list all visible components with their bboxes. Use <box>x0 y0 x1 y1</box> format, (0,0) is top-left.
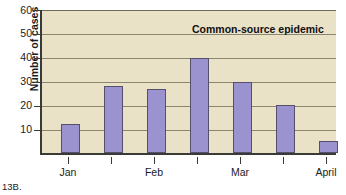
y-tick-label-20: 20 <box>8 100 32 111</box>
y-tick-label-40: 40 <box>8 52 32 63</box>
gridline-40 <box>42 58 336 59</box>
bar-2 <box>104 86 123 153</box>
gridline-60 <box>42 10 336 11</box>
gridline-30 <box>42 82 336 83</box>
figure-caption: 13B. <box>2 181 22 192</box>
bar-feb <box>147 89 166 153</box>
y-tick-label-10: 10 <box>8 124 32 135</box>
x-tickmark-feb <box>154 157 155 164</box>
x-tickmark-jan <box>68 157 69 164</box>
bar-6 <box>276 105 295 153</box>
x-tick-label-jan: Jan <box>46 166 90 178</box>
figure-13b: Number of cases 60 50 40 30 20 10 Common… <box>0 0 346 195</box>
x-tickmark-6 <box>283 157 284 164</box>
x-tickmark-2 <box>111 157 112 164</box>
bar-4 <box>190 58 209 153</box>
bar-jan <box>61 124 80 153</box>
y-tick-label-30: 30 <box>8 76 32 87</box>
x-tick-label-feb: Feb <box>132 166 176 178</box>
chart-title: Common-source epidemic <box>192 23 324 35</box>
bar-mar <box>233 82 252 154</box>
x-tick-label-mar: Mar <box>218 166 262 178</box>
x-tick-label-april: April <box>304 166 346 178</box>
x-tickmark-4 <box>197 157 198 164</box>
x-tickmark-mar <box>240 157 241 164</box>
bar-april <box>319 141 338 153</box>
plot-area: Common-source epidemic <box>40 10 336 155</box>
y-tick-label-50: 50 <box>8 28 32 39</box>
y-tick-label-60: 60 <box>8 5 32 16</box>
x-tickmark-april <box>326 157 327 164</box>
